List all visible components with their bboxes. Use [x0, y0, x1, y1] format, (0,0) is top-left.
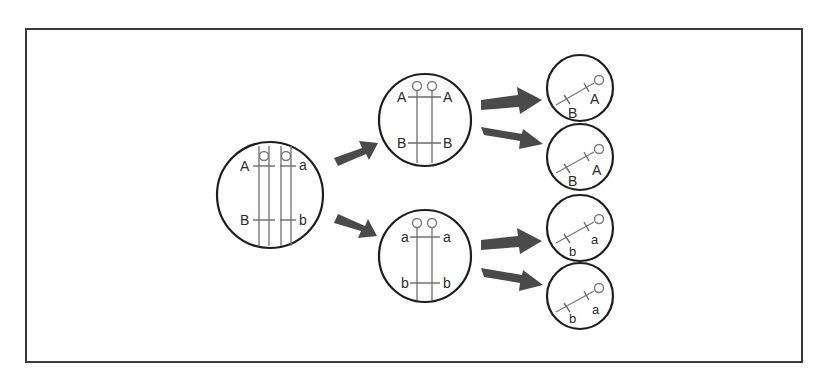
allele-label: B [397, 135, 406, 151]
allele-label: b [569, 244, 576, 259]
allele-label: b [299, 212, 307, 228]
arrow-icon [481, 127, 543, 149]
allele-label: A [240, 158, 250, 174]
allele-label: B [568, 105, 577, 121]
parent-cell: A B a b [217, 142, 323, 248]
centromere-icon [595, 76, 604, 85]
centromere-icon [413, 219, 422, 228]
centromere-icon [595, 215, 604, 224]
gamete-cell-outline [547, 55, 613, 121]
allele-label: B [240, 212, 249, 228]
allele-label: A [397, 89, 407, 105]
allele-label: a [401, 229, 409, 245]
intermediate-cell-outline [379, 74, 471, 166]
intermediate-cell-outline [379, 210, 471, 302]
centromere-icon [595, 145, 604, 154]
allele-label: a [592, 302, 600, 317]
allele-label: A [592, 162, 602, 178]
centromere-icon [428, 219, 437, 228]
intermediate-cell-bottom: a a b b [379, 210, 471, 302]
gamete-cell-2: A B [547, 124, 613, 190]
arrow-icon [481, 87, 542, 114]
allele-label: b [401, 275, 409, 291]
arrow-icon [481, 268, 543, 291]
gamete-cell-outline [547, 195, 613, 261]
gamete-cell-4: a b [547, 263, 613, 329]
allele-label: a [443, 229, 451, 245]
parent-cell-outline [217, 142, 323, 248]
allele-label: A [443, 89, 453, 105]
arrow-icon [481, 228, 542, 254]
centromere-icon [282, 152, 291, 161]
arrow-icon [334, 141, 378, 166]
gamete-cell-1: A B [547, 55, 613, 121]
allele-label: B [443, 135, 452, 151]
allele-label: A [590, 91, 600, 107]
allele-label: b [443, 275, 451, 291]
intermediate-cell-top: A A B B [379, 74, 471, 166]
allele-label: a [591, 232, 599, 247]
arrow-icon [334, 214, 377, 238]
gamete-cell-outline [547, 263, 613, 329]
allele-label: B [568, 173, 577, 189]
gamete-cell-3: a b [547, 195, 613, 261]
centromere-icon [595, 284, 604, 293]
allele-label: a [299, 157, 307, 173]
meiosis-diagram: A B a b A A B B [0, 0, 828, 377]
gamete-cell-outline [547, 124, 613, 190]
centromere-icon [413, 82, 422, 91]
centromere-icon [428, 82, 437, 91]
allele-label: b [569, 311, 576, 326]
centromere-icon [260, 152, 269, 161]
